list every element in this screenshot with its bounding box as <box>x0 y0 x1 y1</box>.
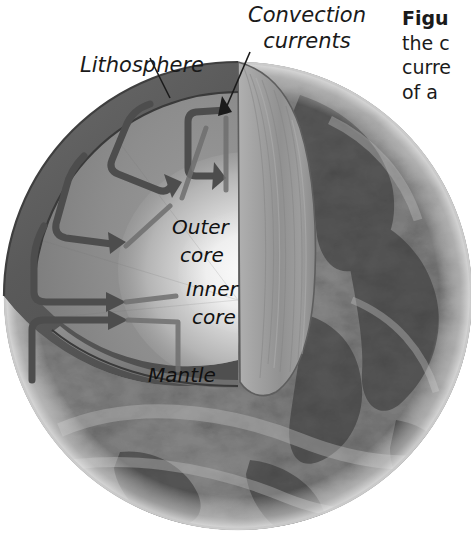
label-convection-line1: Convection <box>248 3 366 27</box>
label-inner-core-line2: core <box>192 305 236 329</box>
label-convection-line2: currents <box>263 29 351 53</box>
caption-line-1: Figu <box>402 6 471 31</box>
caption-line-2: the c <box>402 31 471 56</box>
earth-cutaway-diagram: Convection currents Lithosphere Outer co… <box>0 0 471 544</box>
label-outer-core-line2: core <box>180 243 224 267</box>
caption-line-3: curre <box>402 55 471 80</box>
caption-line-4: of a <box>402 80 471 105</box>
figure-caption: Figu the c curre of a <box>402 6 471 104</box>
label-lithosphere: Lithosphere <box>80 53 204 77</box>
label-inner-core-line1: Inner <box>186 277 240 301</box>
figure-container: Convection currents Lithosphere Outer co… <box>0 0 471 544</box>
caption-figure-word: Figu <box>402 7 449 29</box>
label-outer-core-line1: Outer <box>172 215 231 239</box>
label-mantle: Mantle <box>148 363 216 387</box>
